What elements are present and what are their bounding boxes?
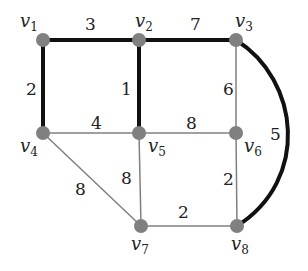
- weight-v3-v6: 6: [223, 79, 234, 99]
- label-v4: v4: [20, 135, 38, 159]
- label-v7: v7: [131, 233, 149, 257]
- weight-v4-v7: 8: [75, 179, 86, 199]
- label-v3: v3: [235, 10, 253, 34]
- graph-diagram: 3 7 2 1 5 6 4 8 8 8 2 2 v1 v2 v3 v4 v5 v…: [0, 0, 308, 271]
- node-v3: [229, 33, 243, 47]
- weight-v3-v8: 5: [270, 124, 281, 144]
- node-v8: [230, 219, 244, 233]
- node-v5: [132, 126, 146, 140]
- label-v6: v6: [244, 135, 262, 159]
- label-v5: v5: [148, 135, 166, 159]
- label-v2: v2: [135, 10, 153, 34]
- label-v1: v1: [20, 10, 38, 34]
- weight-v5-v7: 8: [121, 168, 132, 188]
- node-v2: [132, 33, 146, 47]
- label-v8: v8: [231, 233, 249, 257]
- weight-v1-v2: 3: [85, 14, 96, 34]
- edge-v6-v8: [236, 133, 237, 226]
- weight-v6-v8: 2: [223, 169, 234, 189]
- node-v6: [229, 126, 243, 140]
- node-v7: [134, 219, 148, 233]
- weight-v4-v5: 4: [91, 113, 102, 133]
- weight-v2-v5: 1: [121, 79, 132, 99]
- weight-v5-v6: 8: [186, 113, 197, 133]
- node-v1: [36, 33, 50, 47]
- node-v4: [36, 126, 50, 140]
- weight-v2-v3: 7: [190, 14, 201, 34]
- edge-v5-v7: [139, 133, 141, 226]
- weight-v7-v8: 2: [178, 202, 189, 222]
- weight-v1-v4: 2: [26, 79, 37, 99]
